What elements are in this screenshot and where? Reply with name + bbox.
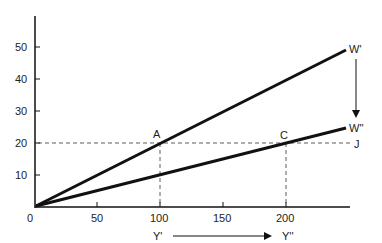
point-c-label: C [280,129,288,141]
x-tick-label-200: 200 [276,212,294,224]
w-prime-line [36,50,346,206]
x-tick-label-100: 100 [150,212,168,224]
shift-arrow-head-icon [352,110,360,118]
j-label: J [354,138,360,150]
x-tick-label-150: 150 [213,212,231,224]
w-double-prime-line [36,128,346,206]
x-tick-label-50: 50 [91,212,103,224]
w-double-prime-label: W'' [349,122,364,134]
y-tick-label-20: 20 [15,137,27,149]
chart: 10 20 30 40 50 0 50 100 150 200 A C W' W… [0,0,382,243]
y-prime-label: Y' [153,230,162,242]
y-tick-label-10: 10 [15,169,27,181]
y-shift-arrow-head-icon [264,232,272,240]
w-prime-label: W' [349,43,361,55]
y-tick-label-50: 50 [15,41,27,53]
y-tick-label-30: 30 [15,105,27,117]
y-double-prime-label: Y'' [282,230,294,242]
x-tick-label-0: 0 [27,212,33,224]
point-a-label: A [153,128,161,140]
y-tick-label-40: 40 [15,73,27,85]
